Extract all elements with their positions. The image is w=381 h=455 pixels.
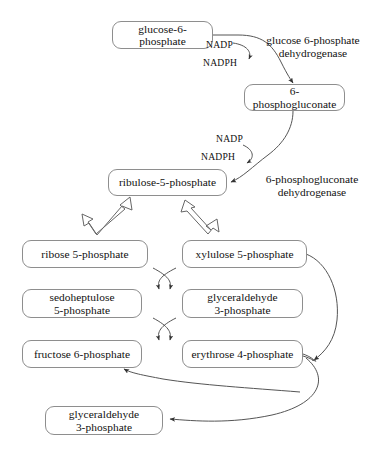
enzyme-label-glucose-6-phosphate-dehydrogenase: glucose 6-phosphate dehydrogenase bbox=[247, 21, 379, 61]
node-glucose-6-phosphate[interactable]: glucose-6-phosphate bbox=[112, 21, 213, 49]
cofactor-label-nadp-2: NADP bbox=[216, 134, 243, 145]
edge-transaldolase-left bbox=[153, 318, 170, 340]
enzyme-label-6-phosphogluconate-dehydrogenase: 6-phosphogluconate dehydrogenase bbox=[245, 160, 379, 200]
edge-ru5p-to-r5p bbox=[82, 197, 132, 235]
node-glyceraldehyde-3-phosphate-middle[interactable]: glyceraldehyde 3-phosphate bbox=[182, 289, 303, 318]
cofactor-label-nadph-1: NADPH bbox=[203, 58, 237, 69]
pathway-diagram: glucose-6-phosphate 6-phosphogluconate r… bbox=[0, 0, 381, 455]
node-6-phosphogluconate[interactable]: 6-phosphogluconate bbox=[244, 84, 345, 111]
node-erythrose-4-phosphate[interactable]: erythrose 4-phosphate bbox=[182, 340, 303, 368]
edge-xu5p-to-e4p bbox=[306, 254, 337, 360]
node-glyceraldehyde-3-phosphate-bottom[interactable]: glyceraldehyde 3-phosphate bbox=[45, 406, 163, 435]
edge-ru5p-to-xu5p bbox=[181, 200, 219, 234]
node-ribose-5-phosphate[interactable]: ribose 5-phosphate bbox=[22, 240, 148, 268]
edge-layer bbox=[0, 0, 381, 455]
edge-transaldolase-right bbox=[158, 318, 176, 340]
cofactor-label-nadph-2: NADPH bbox=[201, 152, 235, 163]
node-sedoheptulose-5-phosphate[interactable]: sedoheptulose 5-phosphate bbox=[22, 289, 142, 318]
edge-transketolase-left bbox=[153, 268, 170, 289]
node-xylulose-5-phosphate[interactable]: xylulose 5-phosphate bbox=[182, 240, 307, 268]
node-ribulose-5-phosphate[interactable]: ribulose-5-phosphate bbox=[108, 169, 227, 196]
edge-g3p-bot-to-f6p bbox=[124, 369, 300, 392]
node-fructose-6-phosphate[interactable]: fructose 6-phosphate bbox=[22, 340, 142, 368]
cofactor-label-nadp-1: NADP bbox=[206, 40, 233, 51]
